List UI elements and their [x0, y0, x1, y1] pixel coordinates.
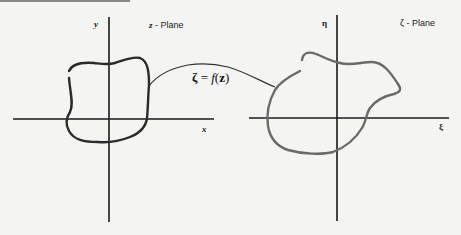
formula-close: ): [225, 70, 229, 85]
left-x-axis-label: x: [202, 124, 207, 134]
formula-eq: =: [197, 70, 211, 85]
z-plane-title-suffix: - Plane: [153, 20, 184, 30]
left-y-axis-label: y: [94, 19, 98, 29]
right-eta-axis-label: η: [322, 18, 327, 28]
zeta-plane-region-curve: [267, 53, 400, 154]
conformal-mapping-diagram: [0, 0, 461, 235]
right-xi-axis-label: ξ: [439, 122, 443, 132]
z-plane-region-curve: [66, 58, 149, 143]
zeta-plane-title-suffix: - Plane: [404, 18, 435, 28]
z-plane-title: z - Plane: [149, 20, 184, 30]
mapping-formula: ζ = f(z): [192, 70, 229, 86]
zeta-plane-title: ζ - Plane: [400, 18, 435, 28]
